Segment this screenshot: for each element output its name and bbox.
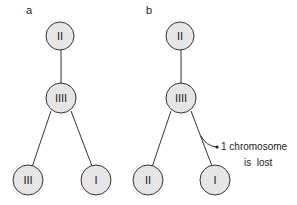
node-right: I bbox=[200, 165, 230, 195]
node-top-label: II bbox=[57, 30, 63, 42]
node-middle-label: IIII bbox=[55, 92, 67, 104]
panel-a-label: a bbox=[26, 4, 33, 16]
node-middle: IIII bbox=[166, 83, 196, 113]
node-right-label: I bbox=[213, 174, 216, 186]
node-middle-label: IIII bbox=[175, 92, 187, 104]
edge-middle-left bbox=[32, 111, 51, 167]
chromosome-diagram: a II IIII III I b II bbox=[0, 0, 297, 205]
node-top: II bbox=[46, 22, 74, 50]
panel-a: a II IIII III I bbox=[13, 4, 111, 195]
node-top: II bbox=[166, 22, 194, 50]
arrow-dot-icon bbox=[215, 145, 218, 148]
chromosome-loss-annotation: 1 chromosome is lost bbox=[201, 136, 288, 168]
annotation-arrow bbox=[201, 136, 217, 147]
edge-middle-left bbox=[152, 111, 171, 167]
panel-b: b II IIII II I 1 chromosome is lost bbox=[133, 4, 288, 195]
annotation-line-1: 1 chromosome bbox=[221, 141, 288, 152]
node-left: II bbox=[133, 165, 163, 195]
node-left-label: III bbox=[23, 174, 32, 186]
edge-middle-right bbox=[71, 111, 92, 166]
node-right: I bbox=[81, 165, 111, 195]
annotation-line-2: is lost bbox=[244, 157, 273, 168]
node-top-label: II bbox=[177, 30, 183, 42]
node-left: III bbox=[13, 165, 43, 195]
node-middle: IIII bbox=[46, 83, 76, 113]
node-right-label: I bbox=[94, 174, 97, 186]
edge-middle-right bbox=[191, 111, 212, 166]
panel-b-label: b bbox=[146, 4, 152, 16]
node-left-label: II bbox=[145, 174, 151, 186]
